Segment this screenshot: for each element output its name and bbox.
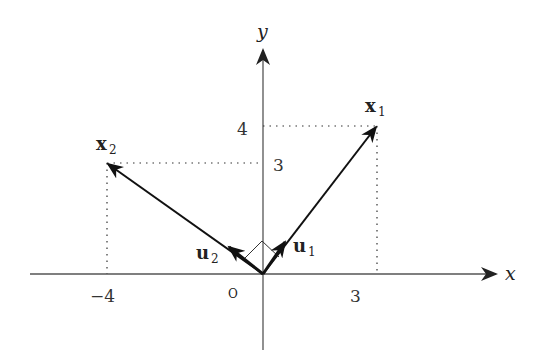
coordinate-diagram: x y O −4 3 4 3 x 1 x 2 u 1 u 2 bbox=[0, 0, 554, 358]
svg-text:u: u bbox=[293, 235, 306, 256]
y-axis-label: y bbox=[256, 20, 268, 42]
label-u2: u 2 bbox=[196, 242, 219, 266]
guide-lines bbox=[107, 126, 377, 274]
vector-u1 bbox=[263, 242, 285, 274]
vector-x2 bbox=[108, 164, 263, 274]
x-axis-label: x bbox=[505, 262, 516, 284]
svg-text:1: 1 bbox=[308, 245, 316, 259]
svg-text:x: x bbox=[365, 95, 376, 116]
origin-label: O bbox=[228, 287, 238, 301]
right-angle-marker bbox=[245, 241, 279, 258]
svg-text:x: x bbox=[96, 133, 107, 154]
svg-text:1: 1 bbox=[378, 105, 386, 119]
x-tick-3: 3 bbox=[350, 286, 361, 306]
label-x2: x 2 bbox=[96, 133, 117, 157]
label-x1: x 1 bbox=[365, 95, 386, 119]
svg-text:2: 2 bbox=[109, 143, 117, 157]
label-u1: u 1 bbox=[293, 235, 316, 259]
svg-text:u: u bbox=[196, 242, 209, 263]
svg-text:2: 2 bbox=[211, 252, 219, 266]
x-tick-minus4: −4 bbox=[90, 286, 115, 306]
vector-u2 bbox=[229, 247, 263, 274]
y-tick-4: 4 bbox=[237, 119, 248, 139]
y-tick-3: 3 bbox=[273, 155, 284, 175]
